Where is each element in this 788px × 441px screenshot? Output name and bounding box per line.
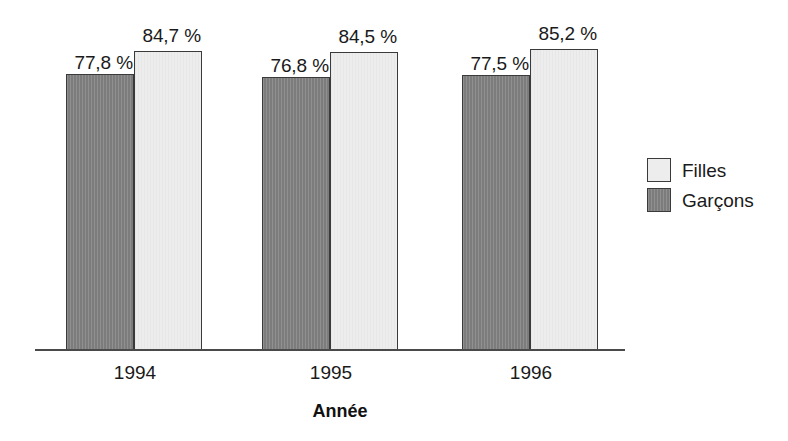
value-label-garcons-1994: 77,8 % (5, 53, 133, 72)
value-label-filles-1995: 84,5 % (269, 27, 397, 46)
bar-filles-1994[interactable] (134, 51, 202, 350)
x-tick-label-1994: 1994 (75, 363, 195, 382)
legend-swatch-filles-icon (647, 158, 671, 182)
x-tick-label-1995: 1995 (271, 363, 391, 382)
bar-garcons-1994[interactable] (66, 74, 134, 350)
value-label-garcons-1995: 76,8 % (201, 56, 329, 75)
legend-item-garcons[interactable]: Garçons (647, 185, 782, 215)
legend-item-filles[interactable]: Filles (647, 155, 782, 185)
bar-garcons-1995[interactable] (262, 77, 330, 350)
x-tick-label-1996: 1996 (471, 363, 591, 382)
x-axis-title: Année (270, 402, 410, 420)
bar-garcons-1996[interactable] (462, 75, 530, 350)
legend-label-filles: Filles (682, 161, 726, 180)
bar-chart: 77,8 % 84,7 % 76,8 % 84,5 % 77,5 % 85,2 … (0, 0, 788, 441)
value-label-filles-1994: 84,7 % (73, 26, 201, 45)
legend-swatch-garcons-icon (647, 188, 671, 212)
value-label-filles-1996: 85,2 % (469, 24, 597, 43)
bar-filles-1996[interactable] (530, 49, 598, 350)
plot-area: 77,8 % 84,7 % 76,8 % 84,5 % 77,5 % 85,2 … (0, 0, 640, 441)
legend-label-garcons: Garçons (682, 191, 754, 210)
chart-legend: Filles Garçons (647, 155, 782, 215)
x-axis-line (35, 349, 625, 351)
bar-filles-1995[interactable] (330, 52, 398, 350)
value-label-garcons-1996: 77,5 % (401, 54, 529, 73)
